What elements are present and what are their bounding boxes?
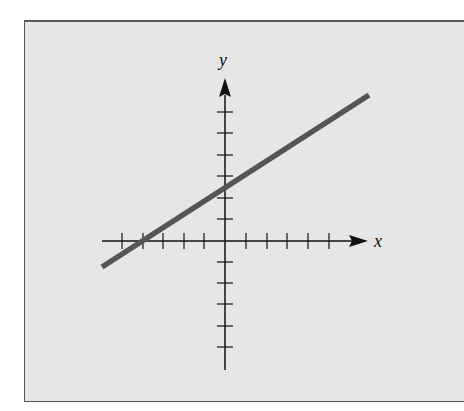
y-axis-arrow-icon [219,78,231,97]
y-axis-label: y [217,50,227,70]
x-axis-label: x [373,231,382,251]
